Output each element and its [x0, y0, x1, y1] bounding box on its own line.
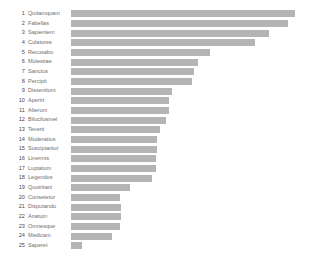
bar [71, 223, 120, 230]
bar [71, 10, 295, 17]
table-row: 8Percipit [0, 77, 314, 87]
bar [71, 155, 156, 162]
category-label: Anatum [28, 214, 71, 220]
bar-track [71, 86, 314, 96]
bar-track [71, 38, 314, 48]
table-row: 18Legendos [0, 173, 314, 183]
rank-number: 7 [0, 69, 28, 75]
category-label: Sanctus [28, 69, 71, 75]
rank-number: 20 [0, 195, 28, 201]
bar-track [71, 125, 314, 135]
rank-number: 17 [0, 166, 28, 172]
bar-track [71, 164, 314, 174]
bar-track [71, 231, 314, 241]
bar [71, 242, 82, 249]
bar [71, 39, 255, 46]
table-row: 11Alterum [0, 106, 314, 116]
table-row: 10Aperirt [0, 96, 314, 106]
bar [71, 88, 172, 95]
table-row: 5Recusabo [0, 48, 314, 58]
rank-number: 8 [0, 79, 28, 85]
bar [71, 136, 157, 143]
category-label: Dissentiunt [28, 88, 71, 94]
bar-track [71, 144, 314, 154]
category-label: Recusabo [28, 50, 71, 56]
rank-number: 11 [0, 108, 28, 114]
rank-number: 18 [0, 175, 28, 181]
bar [71, 78, 192, 85]
bar [71, 117, 166, 124]
table-row: 2Fabellas [0, 19, 314, 29]
table-row: 14Moderatius [0, 135, 314, 145]
bar-track [71, 212, 314, 222]
table-row: 1Quitamquam [0, 9, 314, 19]
table-row: 15Suscipiantur [0, 144, 314, 154]
category-label: Suscipiantur [28, 146, 71, 152]
bar-track [71, 183, 314, 193]
bar [71, 68, 194, 75]
bar-track [71, 57, 314, 67]
table-row: 24Medicam [0, 231, 314, 241]
table-row: 21Disputando [0, 202, 314, 212]
bar [71, 175, 152, 182]
bar-track [71, 19, 314, 29]
table-row: 22Anatum [0, 212, 314, 222]
rank-number: 25 [0, 243, 28, 249]
category-label: Bilucilusmel [28, 117, 71, 123]
table-row: 3Sapientem [0, 28, 314, 38]
bar-track [71, 28, 314, 38]
bar-track [71, 48, 314, 58]
bar-track [71, 9, 314, 19]
bar-track [71, 67, 314, 77]
bar-track [71, 241, 314, 251]
bar [71, 126, 160, 133]
category-label: Fabellas [28, 21, 71, 27]
table-row: 20Consetetur [0, 193, 314, 203]
rank-number: 12 [0, 117, 28, 123]
bar-track [71, 77, 314, 87]
rank-number: 23 [0, 224, 28, 230]
bar [71, 184, 130, 191]
category-label: Percipit [28, 79, 71, 85]
category-label: Quotritani [28, 185, 71, 191]
rank-number: 6 [0, 59, 28, 65]
rank-number: 24 [0, 233, 28, 239]
horizontal-bar-chart: 1Quitamquam2Fabellas3Sapientem4Culatores… [0, 0, 314, 262]
bar [71, 49, 210, 56]
category-label: Disputando [28, 204, 71, 210]
bar [71, 20, 288, 27]
bar [71, 213, 121, 220]
category-label: Consetetur [28, 195, 71, 201]
rank-number: 21 [0, 204, 28, 210]
bar-track [71, 135, 314, 145]
category-label: Medicam [28, 233, 71, 239]
category-label: Quitamquam [28, 11, 71, 17]
bar-track [71, 173, 314, 183]
table-row: 6Molestiae [0, 57, 314, 67]
table-row: 12Bilucilusmel [0, 115, 314, 125]
bar [71, 194, 120, 201]
category-label: Sapientem [28, 30, 71, 36]
table-row: 17Luptatum [0, 164, 314, 174]
bar [71, 107, 169, 114]
rank-number: 15 [0, 146, 28, 152]
table-row: 25Saperet [0, 241, 314, 251]
bar-track [71, 115, 314, 125]
rank-number: 16 [0, 156, 28, 162]
category-label: Aperirt [28, 98, 71, 104]
bar-track [71, 106, 314, 116]
category-label: Moderatius [28, 137, 71, 143]
category-label: Legendos [28, 175, 71, 181]
table-row: 19Quotritani [0, 183, 314, 193]
bar [71, 204, 121, 211]
bar [71, 30, 269, 37]
bar-track [71, 96, 314, 106]
table-row: 23Omnesque [0, 222, 314, 232]
category-label: Linermis [28, 156, 71, 162]
category-label: Culatores [28, 40, 71, 46]
rank-number: 3 [0, 30, 28, 36]
bar [71, 59, 198, 66]
bar [71, 165, 156, 172]
category-label: Alterum [28, 108, 71, 114]
rank-number: 10 [0, 98, 28, 104]
